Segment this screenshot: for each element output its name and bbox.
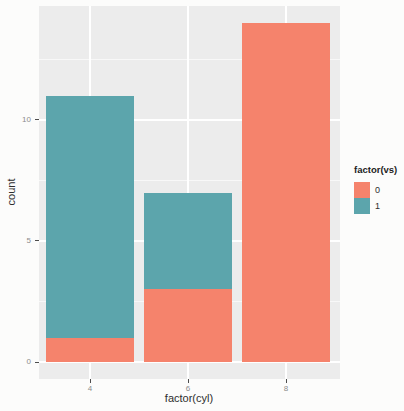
y-tick-mark xyxy=(35,119,39,120)
plot-panel xyxy=(39,6,340,379)
x-tick-label: 4 xyxy=(80,385,100,393)
y-tick-mark xyxy=(35,240,39,241)
bar-segment-cyl8-vs0 xyxy=(242,23,330,362)
y-axis-title: count xyxy=(5,179,17,206)
legend-label-vs0: 0 xyxy=(375,185,380,195)
chart-figure: 0510468 count factor(cyl) factor(vs) 0 1 xyxy=(0,0,404,411)
legend-label-vs1: 1 xyxy=(375,201,380,211)
y-tick-mark xyxy=(35,362,39,363)
x-tick-mark xyxy=(188,379,189,383)
legend-item-vs0: 0 xyxy=(354,182,404,198)
legend: factor(vs) 0 1 xyxy=(354,164,404,214)
x-tick-mark xyxy=(90,379,91,383)
y-tick-label: 0 xyxy=(15,358,31,366)
x-tick-mark xyxy=(286,379,287,383)
y-tick-label: 10 xyxy=(15,116,31,124)
x-tick-label: 8 xyxy=(276,385,296,393)
legend-title: factor(vs) xyxy=(354,164,404,175)
bar-segment-cyl4-vs0 xyxy=(46,338,134,362)
y-tick-label: 5 xyxy=(15,237,31,245)
x-axis-title: factor(cyl) xyxy=(165,392,213,404)
legend-swatch-vs1-icon xyxy=(354,198,370,214)
bar-segment-cyl4-vs1 xyxy=(46,96,134,338)
legend-swatch-vs0-icon xyxy=(354,182,370,198)
bar-segment-cyl6-vs1 xyxy=(144,193,232,290)
legend-item-vs1: 1 xyxy=(354,198,404,214)
bar-segment-cyl6-vs0 xyxy=(144,289,232,362)
